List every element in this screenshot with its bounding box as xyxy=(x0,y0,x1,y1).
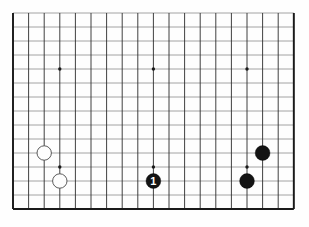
stone-disc-white[interactable] xyxy=(37,146,51,160)
stone-white[interactable] xyxy=(53,174,67,188)
star-point xyxy=(58,165,61,168)
star-point xyxy=(245,165,248,168)
star-point xyxy=(245,67,248,70)
star-point xyxy=(152,165,155,168)
star-point xyxy=(152,67,155,70)
stone-disc-white[interactable] xyxy=(53,174,67,188)
stone-disc-black[interactable] xyxy=(255,146,270,161)
stone-move-number: 1 xyxy=(150,175,156,187)
stone-black[interactable] xyxy=(255,146,270,161)
stone-white[interactable] xyxy=(37,146,51,160)
go-board-canvas[interactable]: 1 xyxy=(0,0,309,227)
stone-black[interactable]: 1 xyxy=(146,174,161,189)
stone-disc-black[interactable] xyxy=(240,174,255,189)
go-board-figure: 1 xyxy=(0,0,309,227)
stone-black[interactable] xyxy=(240,174,255,189)
go-board-surface[interactable]: 1 xyxy=(0,0,309,227)
star-point xyxy=(58,67,61,70)
